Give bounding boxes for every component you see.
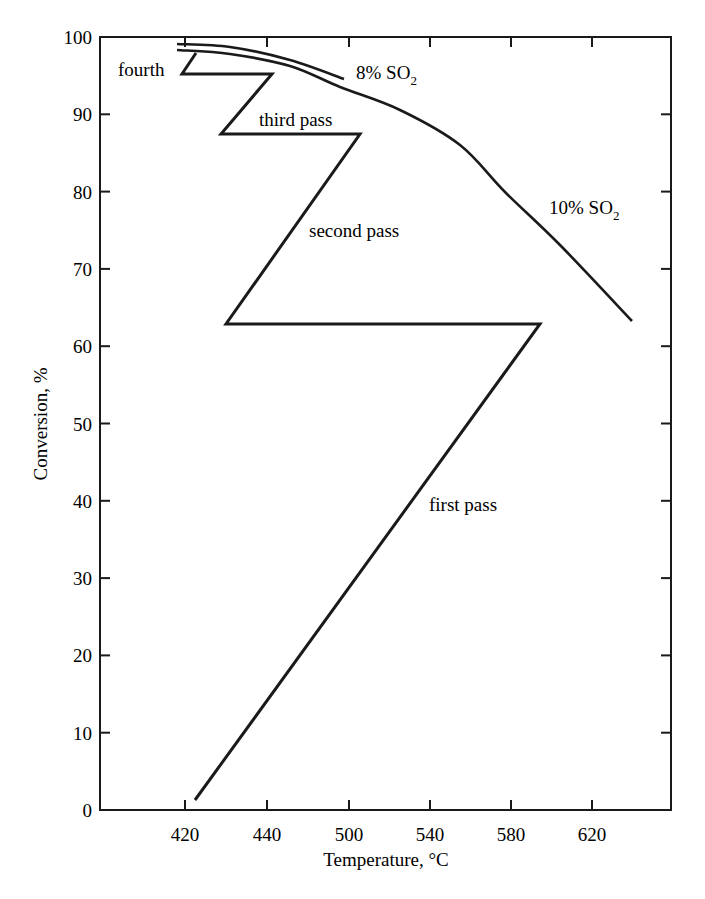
y-tick-label: 60	[73, 336, 92, 357]
x-tick-label: 420	[171, 824, 200, 845]
label-8pct-so2: 8% SO2	[356, 62, 417, 88]
x-axis-title: Temperature, °C	[323, 849, 449, 870]
x-axis: 420440500540580620	[171, 37, 607, 845]
label-10pct-so2: 10% SO2	[549, 197, 619, 223]
x-tick-label: 540	[416, 824, 445, 845]
y-tick-label: 0	[83, 800, 93, 821]
label-second-pass: second pass	[309, 220, 399, 241]
y-tick-label: 30	[73, 568, 92, 589]
y-tick-label: 10	[73, 723, 92, 744]
conversion-passes-line	[182, 53, 540, 800]
plot-frame	[100, 37, 671, 810]
y-tick-label: 20	[73, 645, 92, 666]
equilibrium-curve-10pct	[177, 50, 632, 321]
y-tick-label: 70	[73, 259, 92, 280]
y-tick-label: 100	[64, 27, 93, 48]
y-axis-title: Conversion, %	[30, 367, 51, 480]
label-third-pass: third pass	[259, 109, 332, 130]
y-tick-label: 80	[73, 182, 92, 203]
x-tick-label: 440	[253, 824, 282, 845]
chart: 0102030405060708090100 42044050054058062…	[0, 0, 705, 899]
x-tick-label: 580	[497, 824, 526, 845]
y-tick-label: 40	[73, 491, 92, 512]
label-first-pass: first pass	[429, 494, 497, 515]
y-axis: 0102030405060708090100	[64, 27, 672, 821]
label-fourth: fourth	[118, 59, 165, 80]
y-tick-label: 90	[73, 104, 92, 125]
y-tick-label: 50	[73, 414, 92, 435]
x-tick-label: 620	[578, 824, 607, 845]
x-tick-label: 500	[335, 824, 364, 845]
